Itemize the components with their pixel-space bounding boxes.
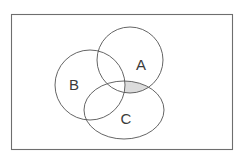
- set-label-b: B: [69, 76, 79, 93]
- venn-diagram-canvas: A B C: [0, 0, 248, 164]
- venn-diagram-figure: A B C: [0, 0, 248, 164]
- set-label-c: C: [121, 110, 132, 127]
- set-label-a: A: [136, 56, 146, 73]
